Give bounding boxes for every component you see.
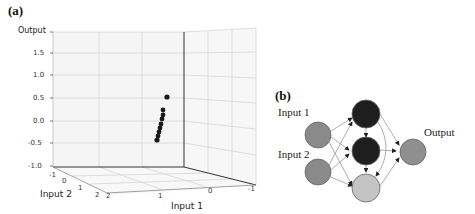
x-tick: 1 bbox=[158, 192, 162, 200]
output-label: Output bbox=[424, 126, 455, 138]
scatter3d-plot bbox=[0, 0, 475, 214]
z-tick: 1.5 bbox=[33, 49, 44, 57]
network-nodes bbox=[305, 100, 426, 202]
x-tick: 0 bbox=[208, 187, 212, 195]
input1-label: Input 1 bbox=[278, 106, 309, 118]
y-tick: 2 bbox=[95, 191, 99, 199]
y-axis-title: Input 2 bbox=[40, 189, 72, 199]
input2-node bbox=[305, 159, 331, 185]
z-axis-title: Output bbox=[18, 26, 46, 35]
x-axis-title: Input 1 bbox=[171, 201, 203, 211]
panel-b-label: (b) bbox=[275, 88, 291, 104]
x-tick: 2 bbox=[106, 192, 110, 200]
y-tick: 1 bbox=[78, 184, 82, 192]
z-tick: -1.0 bbox=[28, 162, 42, 170]
hidden-node-3 bbox=[352, 174, 380, 202]
y-tick: -1 bbox=[49, 171, 56, 179]
z-tick: -0.5 bbox=[28, 139, 42, 147]
x-tick: -1 bbox=[248, 185, 255, 193]
z-tick: 0.5 bbox=[33, 94, 44, 102]
input2-label: Input 2 bbox=[278, 148, 309, 160]
y-tick: 0 bbox=[62, 177, 66, 185]
z-tick: 0.0 bbox=[33, 117, 44, 125]
right-pane bbox=[184, 28, 256, 185]
input1-node bbox=[305, 122, 331, 148]
z-tick: 1.0 bbox=[33, 71, 44, 79]
left-pane bbox=[53, 32, 184, 167]
hidden-node-1 bbox=[352, 100, 380, 128]
hidden-node-2 bbox=[352, 137, 380, 165]
output-node bbox=[400, 139, 426, 165]
